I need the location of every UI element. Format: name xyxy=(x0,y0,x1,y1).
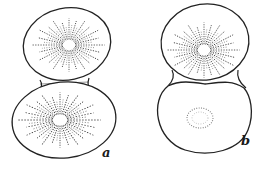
panel-b xyxy=(156,0,254,153)
panel-label-a: a xyxy=(102,146,110,159)
cell-top-a xyxy=(16,0,117,88)
cell-bottom-b xyxy=(158,82,252,153)
cell-illustration xyxy=(0,0,265,169)
panel-label-b: b xyxy=(241,134,250,147)
panel-a xyxy=(8,0,119,163)
